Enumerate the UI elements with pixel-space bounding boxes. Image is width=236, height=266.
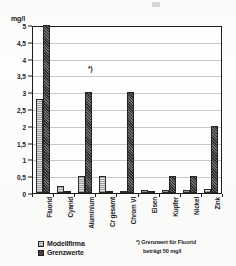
- bar-group: [117, 27, 138, 193]
- bar-limit: [64, 191, 71, 193]
- x-axis-category-labels: FluoridCyanidAluminiumCr gesamtChrom VIE…: [32, 197, 222, 241]
- y-axis-unit-label: mg/l: [11, 15, 25, 22]
- y-axis-ticks: 54,543,532,521,510,50: [0, 26, 32, 194]
- x-label-cell: Cyanid: [53, 197, 74, 241]
- chart-page: mg/l 54,543,532,521,510,50 *) FluoridCya…: [0, 0, 236, 266]
- scan-artifact: [152, 2, 160, 7]
- x-label-cell: Fluorid: [32, 197, 53, 241]
- bar-model: [99, 176, 106, 193]
- y-tick-label: 2: [22, 123, 26, 130]
- bar-model: [120, 191, 127, 193]
- legend-item-modellfirma: Modellfirma: [38, 240, 85, 247]
- x-label-cell: Chrom VI: [116, 197, 137, 241]
- bar-group: [96, 27, 117, 193]
- bar-groups: [33, 27, 221, 193]
- bar-model: [78, 176, 85, 193]
- x-label-cell: Nickel: [180, 197, 201, 241]
- x-label-cell: Cr gesamt: [95, 197, 116, 241]
- x-label-cell: Zink: [201, 197, 222, 241]
- y-tick-label: 3: [22, 90, 26, 97]
- x-label-cell: Aluminium: [74, 197, 95, 241]
- fluorid-asterisk-annotation: *): [88, 65, 93, 72]
- x-label-cell: Eisen: [138, 197, 159, 241]
- bar-limit: [211, 126, 218, 193]
- bar-model: [141, 190, 148, 193]
- bar-model: [204, 189, 211, 193]
- x-axis-label: Cr gesamt: [109, 197, 116, 227]
- bar-limit: [85, 92, 92, 193]
- legend-item-grenzwerte: Grenzwerte: [38, 249, 85, 256]
- x-axis-label: Chrom VI: [130, 197, 137, 224]
- x-axis-label: Aluminium: [88, 197, 95, 229]
- x-axis-label: Nickel: [193, 197, 200, 215]
- bar-group: [179, 27, 200, 193]
- bar-group: [54, 27, 75, 193]
- x-axis-label: Kupfer: [172, 197, 179, 217]
- y-tick-label: 4,5: [17, 39, 26, 46]
- bar-model: [57, 186, 64, 193]
- bar-limit: [127, 92, 134, 193]
- bar-limit: [169, 176, 176, 193]
- x-axis-label: Cyanid: [67, 197, 74, 217]
- bar-limit: [43, 25, 50, 193]
- bar-model: [162, 190, 169, 193]
- y-tick-label: 3,5: [17, 73, 26, 80]
- y-tick-label: 1: [22, 157, 26, 164]
- plot-area: *): [32, 26, 222, 194]
- x-tick-mark: [222, 194, 223, 197]
- bar-group: [200, 27, 221, 193]
- bar-model: [36, 99, 43, 193]
- y-tick-label: 2,5: [17, 107, 26, 114]
- footnote-line-2: beträgt 50 mg/l: [136, 247, 234, 256]
- y-tick-label: 0: [22, 191, 26, 198]
- y-tick-label: 0,5: [17, 174, 26, 181]
- bar-group: [137, 27, 158, 193]
- bar-group: [75, 27, 96, 193]
- legend-label-modellfirma: Modellfirma: [47, 240, 85, 247]
- y-tick-label: 1,5: [17, 140, 26, 147]
- footnote-line-1: *) Grenzwert für Fluorid: [136, 239, 196, 245]
- x-axis-label: Zink: [214, 197, 221, 210]
- y-tick-label: 5: [22, 23, 26, 30]
- bar-group: [33, 27, 54, 193]
- x-axis-label: Fluorid: [46, 197, 53, 218]
- y-tick-label: 4: [22, 56, 26, 63]
- x-axis-label: Eisen: [151, 197, 158, 213]
- bar-limit: [190, 176, 197, 193]
- chart-legend: Modellfirma Grenzwerte: [38, 240, 85, 256]
- bar-limit: [148, 191, 155, 193]
- x-label-cell: Kupfer: [159, 197, 180, 241]
- legend-swatch-icon-modellfirma: [38, 241, 44, 247]
- bar-model: [183, 190, 190, 193]
- chart-footnote: *) Grenzwert für Fluorid beträgt 50 mg/l: [136, 238, 234, 255]
- legend-label-grenzwerte: Grenzwerte: [47, 249, 84, 256]
- bar-group: [158, 27, 179, 193]
- legend-swatch-icon-grenzwerte: [38, 250, 44, 256]
- bar-limit: [106, 191, 113, 193]
